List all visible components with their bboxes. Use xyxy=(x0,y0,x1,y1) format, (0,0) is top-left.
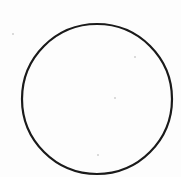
noise-speck xyxy=(114,97,116,99)
noise-speck xyxy=(97,154,99,156)
diagram-canvas xyxy=(0,0,181,177)
circle-shape xyxy=(0,0,181,177)
noise-speck xyxy=(134,56,136,58)
circle-outline xyxy=(22,24,172,174)
noise-speck xyxy=(12,33,14,35)
